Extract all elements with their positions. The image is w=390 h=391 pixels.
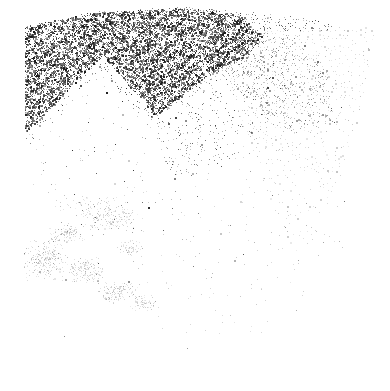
distinct-specks-layer xyxy=(0,0,390,391)
grunge-texture-image xyxy=(0,0,390,391)
